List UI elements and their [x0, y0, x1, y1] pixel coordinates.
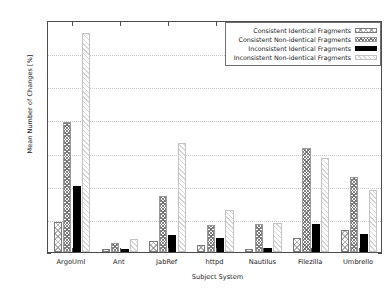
bar [360, 234, 368, 252]
bar [264, 248, 272, 252]
bar-chart: Mean Number of Changes [%] Subject Syste… [0, 0, 391, 294]
bar [130, 239, 138, 252]
y-axis-title: Mean Number of Changes [%] [26, 14, 34, 194]
x-tick-mark-top [168, 22, 169, 26]
bar [82, 33, 90, 252]
legend-item: Consistent Non-identical Fragments [230, 35, 377, 44]
bar [149, 241, 157, 252]
x-tick-mark-top [120, 22, 121, 26]
bar [178, 143, 186, 252]
x-tick-mark [120, 248, 121, 252]
y-tick-mark-right [378, 253, 382, 254]
bar [350, 177, 358, 252]
bar [312, 224, 320, 252]
bar-group [102, 22, 138, 252]
bar [197, 245, 205, 252]
bar [159, 196, 167, 252]
bar [255, 224, 263, 252]
x-tick-mark [72, 248, 73, 252]
legend-label: Consistent Identical Fragments [253, 27, 351, 34]
bar [369, 190, 377, 252]
bar [120, 249, 128, 252]
x-axis-title: Subject System [47, 273, 388, 281]
bar [111, 243, 119, 252]
legend-swatch [355, 37, 377, 43]
bar [341, 230, 349, 252]
bar [293, 238, 301, 252]
bar-group [149, 22, 185, 252]
x-tick-mark [359, 248, 360, 252]
bar [302, 148, 310, 252]
bar [321, 158, 329, 252]
x-tick-mark [168, 248, 169, 252]
legend-swatch [355, 28, 377, 34]
y-tick-mark [47, 253, 51, 254]
bar [168, 235, 176, 252]
x-tick-mark [216, 248, 217, 252]
bar [73, 186, 81, 252]
x-tick-mark [263, 248, 264, 252]
legend-item: Inconsistent Identical Fragments [230, 44, 377, 53]
bar [225, 210, 233, 252]
legend-item: Inconsistent Non-identical Fragments [230, 53, 377, 62]
bar [207, 225, 215, 252]
bar [102, 249, 110, 252]
legend-item: Consistent Identical Fragments [230, 26, 377, 35]
bar [245, 249, 253, 252]
x-tick-mark-top [72, 22, 73, 26]
legend-label: Inconsistent Identical Fragments [248, 45, 351, 52]
bar-group [54, 22, 90, 252]
bar [54, 222, 62, 252]
chart-legend: Consistent Identical FragmentsConsistent… [225, 22, 381, 66]
legend-swatch [355, 55, 377, 61]
legend-label: Inconsistent Non-identical Fragments [234, 54, 351, 61]
legend-label: Consistent Non-identical Fragments [239, 36, 351, 43]
x-tick-mark-top [216, 22, 217, 26]
x-tick-label-umbrello: Umbrello [323, 258, 391, 266]
bar [273, 223, 281, 252]
legend-swatch [355, 46, 377, 52]
bar [63, 122, 71, 252]
x-tick-mark [311, 248, 312, 252]
bar [216, 238, 224, 252]
